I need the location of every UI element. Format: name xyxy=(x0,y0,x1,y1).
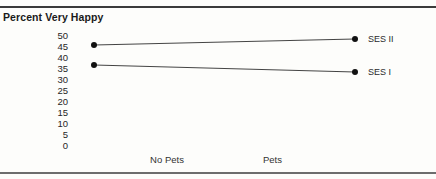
data-point-marker[interactable] xyxy=(352,36,358,42)
data-point-marker[interactable] xyxy=(91,62,97,68)
data-point-marker[interactable] xyxy=(352,69,358,75)
series-line-ses-2 xyxy=(94,39,355,45)
series-label-ses-1: SES I xyxy=(368,67,391,77)
series-line-ses-1 xyxy=(94,65,355,72)
plot-area: 50 45 40 35 30 25 20 15 10 5 0 SES II SE… xyxy=(0,0,436,179)
data-point-marker[interactable] xyxy=(91,42,97,48)
bottom-divider-rule xyxy=(0,172,436,174)
chart-figure: Percent Very Happy 50 45 40 35 30 25 20 … xyxy=(0,0,436,179)
series-label-ses-2: SES II xyxy=(368,34,394,44)
x-tick-label-pets: Pets xyxy=(245,155,300,165)
series-lines xyxy=(0,0,436,179)
x-tick-label-no-pets: No Pets xyxy=(137,155,197,165)
